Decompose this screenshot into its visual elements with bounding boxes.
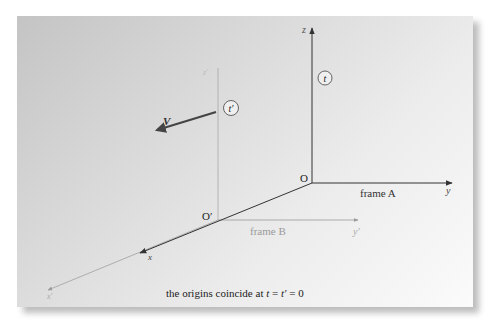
caption-prefix: the origins coincide at: [166, 287, 266, 299]
frame-a-clock-label: t: [324, 73, 327, 84]
frame-a-name: frame A: [360, 187, 396, 199]
caption-eq2: = 0: [286, 287, 304, 299]
frame-b-y-label: y′: [352, 226, 360, 237]
frame-a-y-label: y: [445, 185, 451, 196]
caption: the origins coincide at t = t′ = 0: [166, 287, 304, 299]
frame-b-z-label: z′: [202, 68, 208, 77]
frame-b-x-axis: [48, 220, 218, 290]
frame-b-x-label: x′: [46, 292, 53, 301]
frame-a-z-label: z: [301, 24, 306, 35]
frame-b-origin-label: O′: [202, 210, 212, 222]
reference-frames-diagram: t t′ V O z y x frame A O′ z′ y′ x′ frame…: [0, 0, 491, 325]
frame-a-origin-label: O: [300, 172, 308, 184]
frame-b-clock-label: t′: [229, 103, 235, 114]
frame-a-x-axis: [140, 183, 312, 253]
caption-eq1: =: [269, 287, 281, 299]
frame-a: [140, 28, 452, 253]
frame-b-name: frame B: [250, 225, 286, 237]
frame-a-x-label: x: [147, 252, 152, 262]
